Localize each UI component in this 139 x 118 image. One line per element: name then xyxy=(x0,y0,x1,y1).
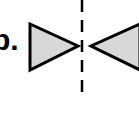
symmetry-diagram xyxy=(0,0,139,118)
left-triangle xyxy=(30,24,78,70)
right-triangle xyxy=(91,24,139,70)
